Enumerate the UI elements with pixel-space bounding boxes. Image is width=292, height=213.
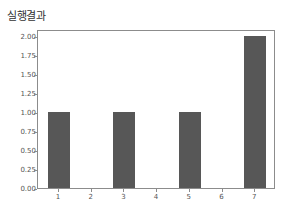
bar-3 [113,112,135,188]
x-tick-mark [58,189,59,192]
x-tick-mark [189,189,190,192]
y-tick-mark [34,56,37,57]
x-tick-label: 3 [121,193,125,201]
x-tick-mark [156,189,157,192]
x-tick-label: 5 [187,193,191,201]
y-tick-mark [34,151,37,152]
y-tick-mark [34,75,37,76]
x-tick-mark [254,189,255,192]
x-tick-mark [91,189,92,192]
y-tick-mark [34,94,37,95]
x-tick-label: 1 [56,193,60,201]
chart-title: 실행결과 [7,7,46,23]
bar-1 [48,112,70,188]
plot-area [37,30,275,189]
y-tick-mark [34,189,37,190]
y-tick-mark [34,170,37,171]
x-tick-mark [123,189,124,192]
y-tick-mark [34,132,37,133]
x-tick-label: 4 [154,193,158,201]
y-tick-mark [34,37,37,38]
x-tick-mark [222,189,223,192]
bar-5 [179,112,201,188]
bar-7 [244,36,266,188]
x-tick-label: 7 [252,193,256,201]
y-tick-mark [34,113,37,114]
x-tick-label: 2 [88,193,92,201]
x-tick-label: 6 [219,193,223,201]
